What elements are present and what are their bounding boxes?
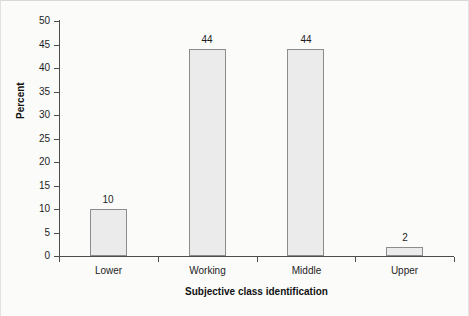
y-axis-tick (54, 139, 59, 140)
y-axis-tick (54, 115, 59, 116)
x-axis-tick (454, 257, 455, 262)
y-axis-tick-label: 50 (39, 14, 50, 27)
bar-middle (287, 49, 324, 256)
y-axis-tick (54, 209, 59, 210)
y-axis-tick (54, 21, 59, 22)
bar-upper (386, 247, 423, 256)
y-axis-tick (54, 45, 59, 46)
y-axis-tick-label: 25 (39, 132, 50, 145)
y-axis-tick (54, 162, 59, 163)
y-axis-tick-label: 35 (39, 85, 50, 98)
x-axis-title: Subjective class identification (59, 285, 454, 298)
y-axis-tick-label: 40 (39, 61, 50, 74)
bar-chart-figure: Percent 50454035302520151050 10Lower44Wo… (0, 0, 469, 316)
bar-value-label: 10 (88, 194, 128, 206)
x-axis-category-label: Middle (257, 264, 356, 277)
y-axis-tick-label: 30 (39, 108, 50, 121)
y-axis-tick-label: 15 (39, 179, 50, 192)
y-axis-tick-label: 5 (44, 226, 50, 239)
y-axis-tick-label: 0 (44, 249, 50, 262)
y-axis-tick (54, 92, 59, 93)
x-axis-tick (355, 257, 356, 262)
y-axis-tick (54, 186, 59, 187)
bar-lower (90, 209, 127, 256)
x-axis-category-label: Upper (355, 264, 454, 277)
y-axis-line (59, 20, 60, 257)
x-axis-tick (257, 257, 258, 262)
y-axis-tick (54, 68, 59, 69)
x-axis-tick (158, 257, 159, 262)
y-axis-tick-label: 10 (39, 202, 50, 215)
bar-working (189, 49, 226, 256)
y-axis-tick (54, 233, 59, 234)
y-axis-tick-label: 45 (39, 38, 50, 51)
y-axis-tick-label: 20 (39, 155, 50, 168)
bar-value-label: 2 (385, 232, 425, 244)
x-axis-category-label: Working (158, 264, 257, 277)
x-axis-tick (59, 257, 60, 262)
x-axis-category-label: Lower (59, 264, 158, 277)
bar-value-label: 44 (187, 34, 227, 46)
y-axis-title: Percent (15, 82, 27, 119)
bar-value-label: 44 (286, 34, 326, 46)
